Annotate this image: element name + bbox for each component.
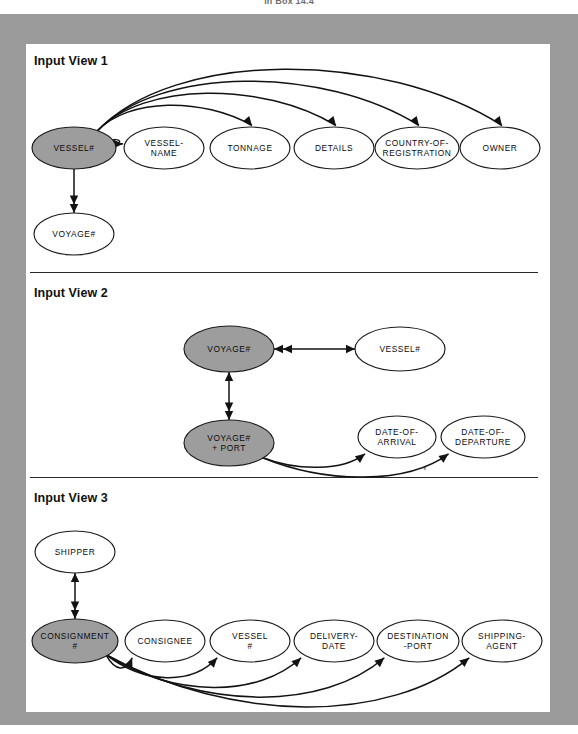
node-label: VESSEL#: [379, 344, 420, 354]
edge-arrowhead: [291, 658, 301, 668]
edge-arrowhead: [410, 116, 419, 126]
node-v1-tonnage[interactable]: TONNAGE: [210, 127, 290, 169]
top-caption: in Box 14.4: [0, 0, 578, 5]
node-v1-country[interactable]: COUNTRY-OF-REGISTRATION: [375, 127, 459, 169]
node-label: AGENT: [486, 641, 518, 651]
node-label: TONNAGE: [227, 143, 272, 153]
node-label: VESSEL: [232, 631, 268, 641]
edge-arrowhead: [71, 610, 79, 619]
node-v2-date-departure[interactable]: DATE-OF-DEPARTURE: [441, 416, 525, 458]
node-label: COUNTRY-OF-: [385, 138, 449, 148]
node-label: #: [247, 641, 252, 651]
node-label: + PORT: [212, 443, 246, 453]
node-v3-consignment[interactable]: CONSIGNMENT#: [32, 619, 118, 663]
node-v3-shipping-agent[interactable]: SHIPPING-AGENT: [462, 620, 542, 662]
node-label: DELIVERY-: [310, 631, 358, 641]
node-v2-date-arrival[interactable]: DATE-OF-ARRIVAL: [358, 416, 436, 458]
node-v3-consignee[interactable]: CONSIGNEE: [125, 620, 205, 662]
edge-arrowhead: [225, 372, 233, 381]
edge-arc: [97, 69, 502, 131]
edge-arrowhead: [71, 602, 79, 611]
node-v3-shipper[interactable]: SHIPPER: [35, 531, 115, 573]
node-v1-owner[interactable]: OWNER: [460, 127, 540, 169]
edge-arrowhead: [493, 116, 502, 126]
edge-arrowhead: [459, 658, 469, 667]
node-label: DESTINATION: [387, 631, 449, 641]
edge-arrowhead: [71, 573, 79, 582]
diagram-sheet: Input View 1 Input View 2 Input View 3 V…: [26, 44, 550, 712]
edge-arrowhead: [225, 403, 233, 412]
edge-arc: [261, 454, 365, 468]
node-label: VOYAGE#: [207, 433, 250, 443]
edge-arc: [97, 93, 336, 131]
node-layer: VESSEL#VESSEL-NAMETONNAGEDETAILSCOUNTRY-…: [32, 127, 542, 663]
node-label: VESSEL-: [144, 138, 183, 148]
node-v1-details[interactable]: DETAILS: [294, 127, 374, 169]
node-label: CONSIGNMENT: [41, 631, 110, 641]
edge-arc: [97, 81, 419, 131]
node-label: DATE-OF-: [375, 427, 418, 437]
node-v1-vessel-name[interactable]: VESSEL-NAME: [124, 127, 204, 169]
diagram-canvas: VESSEL#VESSEL-NAMETONNAGEDETAILSCOUNTRY-…: [26, 44, 550, 712]
diagram-page: in Box 14.4 Input View 1 Input View 2 In…: [0, 0, 578, 734]
node-v3-vessel-no[interactable]: VESSEL#: [210, 620, 290, 662]
edge-arrowhead: [438, 454, 448, 463]
node-label: DETAILS: [315, 143, 353, 153]
node-label: VOYAGE#: [52, 229, 95, 239]
node-label: OWNER: [483, 143, 518, 153]
node-v1-voyage-no[interactable]: VOYAGE#: [34, 213, 114, 255]
node-label: DATE: [322, 641, 346, 651]
node-v1-vessel-no[interactable]: VESSEL#: [32, 127, 116, 169]
edge-arrowhead: [374, 658, 384, 667]
node-label: #: [72, 641, 77, 651]
edge-arrowhead: [243, 116, 252, 125]
edge-arrowhead: [70, 196, 78, 205]
node-v2-voyage-port[interactable]: VOYAGE#+ PORT: [184, 420, 274, 466]
node-label: CONSIGNEE: [137, 636, 192, 646]
node-v2-voyage-no[interactable]: VOYAGE#: [184, 326, 274, 372]
node-label: ARRIVAL: [377, 437, 416, 447]
node-label: SHIPPER: [55, 547, 96, 557]
node-v3-destination-port[interactable]: DESTINATION-PORT: [377, 620, 459, 662]
node-label: -PORT: [404, 641, 433, 651]
node-label: DATE-OF-: [461, 427, 504, 437]
edge-arrowhead: [283, 345, 292, 353]
node-label: REGISTRATION: [383, 148, 452, 158]
node-label: VESSEL#: [53, 143, 94, 153]
node-label: DEPARTURE: [455, 437, 511, 447]
node-v2-vessel-no[interactable]: VESSEL#: [355, 327, 445, 371]
node-v3-delivery-date[interactable]: DELIVERY-DATE: [294, 620, 374, 662]
page-frame: Input View 1 Input View 2 Input View 3 V…: [0, 14, 578, 725]
edge-arrowhead: [327, 116, 336, 126]
node-label: SHIPPING-: [478, 631, 526, 641]
node-label: VOYAGE#: [207, 344, 250, 354]
edge-arrowhead: [346, 345, 355, 353]
edge-arc: [106, 655, 301, 688]
edge-arrowhead: [274, 345, 283, 353]
edge-arrowhead: [225, 411, 233, 420]
node-label: NAME: [151, 148, 177, 158]
edge-arrowhead: [70, 204, 78, 213]
